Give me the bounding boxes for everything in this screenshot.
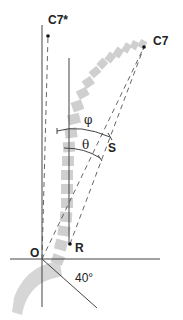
label-theta: θ	[82, 139, 89, 151]
c7star-point	[46, 34, 50, 38]
vertebrae	[51, 39, 148, 266]
label-angle-40: 40°	[75, 272, 93, 284]
label-o: O	[30, 247, 39, 259]
label-c7: C7	[153, 35, 168, 47]
o-to-c7-dashed	[42, 47, 144, 259]
label-c7-star: C7*	[48, 14, 68, 26]
c7-point	[142, 45, 146, 49]
reference-lines	[10, 25, 160, 308]
label-s: S	[108, 142, 116, 154]
label-r: R	[75, 242, 84, 254]
r-point	[68, 242, 72, 246]
o-to-c7star-dashed	[42, 36, 48, 259]
label-phi: φ	[84, 114, 92, 126]
